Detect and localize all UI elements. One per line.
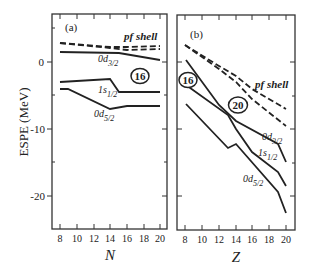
svg-text:12: 12 (214, 234, 224, 245)
ytick-minus10: -10 (30, 123, 45, 135)
svg-text:8: 8 (58, 233, 63, 244)
y-axis-label: ESPE (MeV) (16, 88, 31, 157)
pf-shell-label-b: pf shell (254, 78, 289, 90)
panel-a-xtick-labels: 8 10 12 14 16 18 20 (58, 233, 166, 244)
svg-text:12: 12 (89, 233, 99, 244)
panel-a-label: (a) (65, 21, 78, 34)
svg-text:16: 16 (247, 234, 257, 245)
magic-16-label-a: 16 (135, 70, 147, 82)
panel-b-series (185, 45, 286, 213)
pf-shell-label-a: pf shell (123, 30, 158, 42)
magic-20-label-b: 20 (233, 99, 245, 111)
svg-text:20: 20 (155, 233, 165, 244)
ytick-minus20: -20 (30, 190, 45, 202)
svg-text:20: 20 (281, 234, 291, 245)
panel-b: (b) pf shell 16 20 0d3/2 1s1/2 0d5/2 8 1… (177, 15, 295, 265)
x-axis-label-n: N (104, 247, 116, 263)
espe-chart: (a) pf shell 0d3/2 1s1/2 0d5/2 16 0 -10 … (0, 0, 311, 275)
panel-a: (a) pf shell 0d3/2 1s1/2 0d5/2 16 0 -10 … (16, 14, 167, 263)
svg-text:16: 16 (122, 233, 132, 244)
0d52-label-b: 0d5/2 (243, 173, 263, 188)
svg-text:10: 10 (72, 233, 82, 244)
panel-b-frame (177, 15, 295, 230)
ytick-0: 0 (39, 56, 45, 68)
panel-b-label: (b) (190, 28, 203, 41)
0d32-label-b: 0d3/2 (262, 131, 282, 146)
svg-text:14: 14 (105, 233, 115, 244)
magic-16-label-b: 16 (183, 74, 195, 86)
x-axis-label-z: Z (232, 249, 241, 265)
panel-b-ticks (177, 15, 295, 230)
0d52-label-a: 0d5/2 (94, 108, 114, 123)
svg-text:8: 8 (183, 234, 188, 245)
svg-text:18: 18 (264, 234, 274, 245)
svg-text:14: 14 (231, 234, 241, 245)
svg-text:10: 10 (197, 234, 207, 245)
0d32-label-a: 0d3/2 (98, 53, 118, 68)
panel-b-xtick-labels: 8 10 12 14 16 18 20 (183, 234, 292, 245)
svg-text:18: 18 (139, 233, 149, 244)
